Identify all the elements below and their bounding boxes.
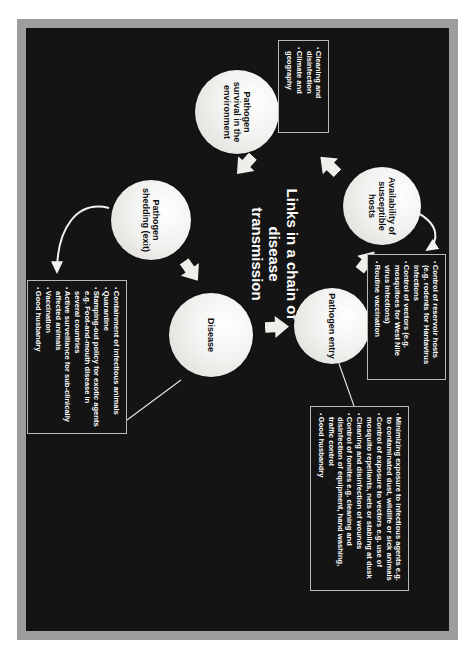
callout-list-item: Minimizing exposure to infectious agents… (384, 413, 403, 584)
callout-list-item: Control of fomites e.g. cleaning and dis… (326, 413, 354, 584)
callout-hosts-controls: Control of reservoir hosts (e.g. rodents… (367, 254, 446, 380)
callout-list-item: Cleaning and disinfection of wounds (355, 413, 364, 584)
leader-arrow-shedding (57, 207, 109, 272)
node-disease[interactable]: Disease (169, 293, 253, 377)
connector-entry-callout (337, 358, 354, 406)
node-label: Pathogen survival in the environment (222, 70, 252, 154)
callout-list-item: Vaccination (44, 287, 53, 427)
callout-list-item: Good husbandry (316, 413, 325, 584)
node-pathogen-shedding-exit[interactable]: Pathogen shedding (exit) (111, 180, 191, 260)
callout-list-item: Routine vaccination (373, 261, 382, 373)
node-label: Pathogen shedding (exit) (141, 180, 161, 260)
callout-list-item: Quarantine (102, 287, 111, 427)
connector-shedding-callout (127, 380, 181, 420)
node-label: Availability of susceptible hosts (367, 167, 397, 245)
node-label: Pathogen entry (327, 289, 337, 363)
callout-list: Cleaning and disinfectionClimate and geo… (285, 47, 323, 126)
node-pathogen-entry[interactable]: Pathogen entry (294, 288, 370, 364)
node-label: Disease (206, 314, 216, 356)
slide-frame: Links in a chain of disease transmission… (17, 19, 458, 640)
callout-survival-controls: Cleaning and disinfectionClimate and geo… (278, 40, 329, 133)
diagram-stage: Links in a chain of disease transmission… (26, 28, 449, 631)
node-availability-of-susceptible-hosts[interactable]: Availability of susceptible hosts (343, 167, 421, 245)
callout-list: Minimizing exposure to infectious agents… (316, 413, 403, 584)
callout-list-item: Good husbandry (34, 287, 43, 427)
callout-list-item: Control of vectors (e.g. mosquitoes for … (383, 261, 411, 373)
callout-list-item: Climate and geography (285, 47, 304, 126)
callout-entry-controls: Minimizing exposure to infectious agents… (310, 406, 409, 591)
diagram-title: Links in a chain of disease transmission (248, 180, 301, 328)
node-pathogen-survival-in-the-environment[interactable]: Pathogen survival in the environment (195, 70, 279, 154)
callout-shedding-controls: Containment of infectious animalsQuarant… (27, 280, 127, 434)
callout-list-item: Active surveillance for sub-clinically a… (54, 287, 73, 427)
callout-list-item: Control of reservoir hosts (e.g. rodents… (412, 261, 440, 373)
callout-list-item: Containment of infectious animals (112, 287, 121, 427)
callout-list: Containment of infectious animalsQuarant… (34, 287, 121, 427)
callout-list-item: Control of exposure to vectors e.g. use … (365, 413, 384, 584)
slide-canvas: Links in a chain of disease transmission… (26, 28, 449, 631)
callout-list: Control of reservoir hosts (e.g. rodents… (373, 261, 440, 373)
callout-list-item: Stamping-out policy for exotic agents e.… (73, 287, 101, 427)
callout-list-item: Cleaning and disinfection (304, 47, 323, 126)
slide-screenshot: Links in a chain of disease transmission… (0, 0, 475, 659)
